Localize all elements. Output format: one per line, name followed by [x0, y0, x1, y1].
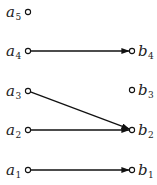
node-a1: a1: [6, 161, 31, 180]
node-circle-b1: [129, 167, 134, 172]
node-label-b4: b4: [138, 42, 154, 61]
node-label-b3: b3: [138, 81, 154, 100]
node-b4: b4: [129, 42, 154, 61]
node-circle-a5: [25, 9, 30, 14]
node-circle-a1: [25, 167, 30, 172]
node-label-a1: a1: [6, 161, 21, 180]
node-label-a3: a3: [6, 82, 21, 101]
node-label-a4: a4: [6, 42, 21, 61]
node-b2: b2: [129, 121, 153, 140]
node-circle-a4: [25, 48, 30, 53]
node-label-a2: a2: [6, 121, 21, 140]
node-label-a5: a5: [6, 3, 21, 22]
node-b3: b3: [129, 81, 154, 100]
node-a2: a2: [6, 121, 31, 140]
node-circle-a2: [25, 127, 30, 132]
bipartite-graph: a5a4a3a2a1b4b3b2b1: [0, 0, 157, 185]
node-a3: a3: [6, 82, 31, 101]
node-a5: a5: [6, 3, 31, 22]
node-label-b2: b2: [138, 121, 154, 140]
node-circle-a3: [25, 88, 30, 93]
nodes-group: a5a4a3a2a1b4b3b2b1: [6, 3, 154, 180]
node-b1: b1: [129, 161, 153, 180]
node-a4: a4: [6, 42, 31, 61]
node-circle-b2: [129, 127, 134, 132]
edge-a3-to-b2: [30, 92, 129, 129]
node-circle-b4: [129, 48, 134, 53]
node-circle-b3: [129, 87, 134, 92]
edges-group: [30, 51, 129, 170]
node-label-b1: b1: [138, 161, 154, 180]
